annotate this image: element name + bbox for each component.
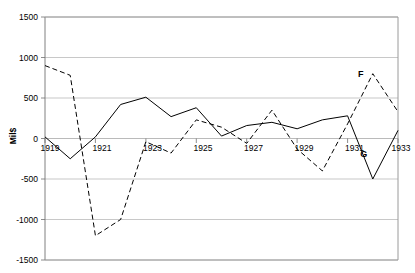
y-tick-label-500: 500 (24, 93, 38, 103)
annotation-label-f: F (358, 69, 364, 79)
y-tick-label-0: 0 (33, 134, 38, 144)
y-tickmarks (41, 17, 45, 260)
y-tick-label-1000: 1000 (19, 53, 38, 63)
y-tick-labels: 1500 1000 500 0 -500 -1000 -1500 (16, 12, 38, 265)
x-tick-label-1925: 1925 (194, 143, 213, 153)
x-tick-label-1921: 1921 (93, 143, 112, 153)
x-tick-label-1933: 1933 (392, 143, 411, 153)
annotation-label-g: G (360, 149, 367, 159)
y-axis-title: Mil$ (8, 127, 18, 144)
solid-line-series (45, 97, 398, 179)
gridlines (45, 17, 398, 260)
x-tick-labels: 1919 1921 1923 1925 1927 1929 1931 1933 (41, 143, 411, 153)
x-tick-label-1919: 1919 (41, 143, 60, 153)
y-tick-label-neg1500: -1500 (16, 255, 38, 265)
y-tick-label-neg500: -500 (21, 174, 38, 184)
line-chart: 1500 1000 500 0 -500 -1000 -1500 1919 19… (0, 0, 415, 273)
y-tick-label-1500: 1500 (19, 12, 38, 22)
chart-container: 1500 1000 500 0 -500 -1000 -1500 1919 19… (0, 0, 415, 273)
y-tick-label-neg1000: -1000 (16, 215, 38, 225)
x-tick-label-1929: 1929 (295, 143, 314, 153)
x-tick-label-1927: 1927 (244, 143, 263, 153)
